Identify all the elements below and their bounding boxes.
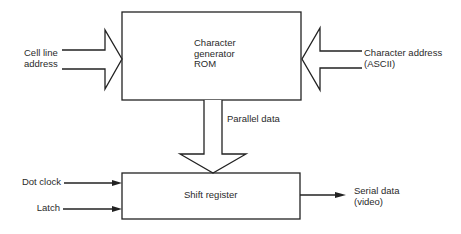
character-address-arrow-icon	[302, 28, 362, 90]
latch-arrowhead-icon	[112, 206, 122, 212]
dot-clock-text: Dot clock	[0, 177, 61, 188]
character-address-line2: (ASCII)	[364, 59, 442, 70]
rom-label: Character generator ROM	[194, 38, 236, 70]
cell-line-address-label: Cell line address	[24, 48, 58, 69]
character-address-line1: Character address	[364, 48, 442, 59]
cell-line-address-arrow-icon	[62, 30, 122, 89]
dot-clock-label: Dot clock	[0, 177, 61, 188]
latch-text: Latch	[0, 203, 60, 214]
serial-data-line2: (video)	[354, 197, 399, 208]
shift-register-text: Shift register	[184, 190, 237, 201]
cell-line-address-line2: address	[24, 59, 58, 70]
serial-data-label: Serial data (video)	[354, 186, 399, 207]
rom-label-line1: Character	[194, 38, 236, 49]
parallel-data-text: Parallel data	[227, 114, 280, 125]
character-generator-diagram: Character generator ROM Cell line addres…	[0, 0, 461, 234]
rom-label-line3: ROM	[194, 59, 236, 70]
cell-line-address-line1: Cell line	[24, 48, 58, 59]
serial-data-line1: Serial data	[354, 186, 399, 197]
parallel-data-label: Parallel data	[227, 114, 280, 125]
serial-data-arrowhead-icon	[335, 192, 346, 198]
dot-clock-arrowhead-icon	[112, 180, 122, 186]
latch-label: Latch	[0, 203, 60, 214]
character-address-label: Character address (ASCII)	[364, 48, 442, 69]
shift-register-label: Shift register	[184, 190, 237, 201]
parallel-data-arrow-icon	[180, 100, 246, 173]
